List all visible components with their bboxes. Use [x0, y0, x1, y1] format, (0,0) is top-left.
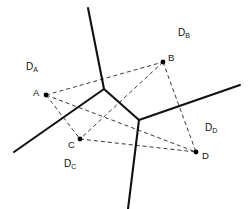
region-label-dc-sub: C [71, 163, 76, 170]
region-label-dc: DC [64, 159, 76, 169]
site-label-a: A [33, 88, 39, 98]
region-label-dd: DD [205, 123, 217, 133]
voronoi-edge-northeast-ray [139, 85, 240, 120]
region-label-dd-sub: D [212, 127, 217, 134]
site-dot-c [78, 137, 83, 142]
site-dot-d [194, 150, 199, 155]
voronoi-edge-north-ray [88, 8, 104, 89]
region-label-db: DB [178, 28, 190, 38]
site-dot-a [44, 93, 49, 98]
voronoi-edge-south-ray [128, 120, 139, 209]
site-label-c: C [68, 140, 75, 150]
diagram-canvas [0, 0, 252, 209]
voronoi-edge-center [104, 89, 139, 120]
voronoi-edge-southwest-ray [14, 89, 104, 152]
site-label-d: D [202, 151, 209, 161]
voronoi-diagram-figure: A B C D DA DB DC DD [0, 0, 252, 209]
region-label-db-sub: B [185, 32, 190, 39]
region-label-da-sub: A [33, 66, 38, 73]
site-dot-b [161, 60, 166, 65]
region-label-da: DA [26, 62, 38, 72]
site-label-b: B [168, 53, 174, 63]
voronoi-edge-group [14, 8, 240, 209]
